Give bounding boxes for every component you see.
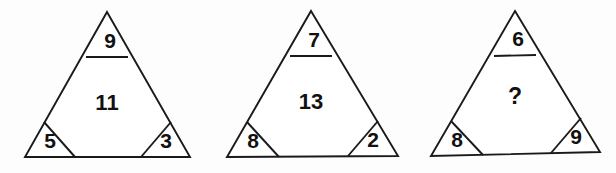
triangle-2-group: 7 8 2 13 [227,11,398,157]
puzzle-figure: 9 5 3 11 7 8 2 13 6 8 9 ? [0,0,616,173]
triangle-2-top-value: 7 [308,28,320,51]
triangle-1-group: 9 5 3 11 [25,12,190,157]
triangle-2-bottom-right-value: 2 [367,128,379,151]
triangle-3-center-value: ? [508,83,522,109]
triangle-1-bottom-right-value: 3 [160,129,172,152]
triangle-1-center-value: 11 [95,90,118,115]
triangle-1-top-value: 9 [104,29,116,52]
triangle-3-bottom-left-value: 8 [451,128,463,151]
triangle-1-bottom-left-value: 5 [44,129,56,152]
triangle-3-top-value: 6 [512,27,524,50]
triangle-3-bottom-right-value: 9 [570,125,582,148]
triangle-2-bottom-left-value: 8 [247,129,259,152]
puzzle-canvas: 9 5 3 11 7 8 2 13 6 8 9 ? [0,0,616,173]
triangle-3-group: 6 8 9 ? [431,11,600,156]
triangle-3-top-cut [494,55,536,56]
triangle-2-center-value: 13 [299,89,323,114]
